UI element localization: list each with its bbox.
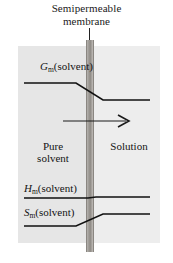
enthalpy-symbol: H bbox=[24, 182, 32, 194]
entropy-symbol: S bbox=[24, 206, 30, 218]
gibbs-energy-label: Gm(solvent) bbox=[40, 60, 93, 74]
enthalpy-subscript: m bbox=[32, 187, 38, 196]
gibbs-energy-line bbox=[24, 83, 150, 100]
entropy-label: Sm(solvent) bbox=[24, 206, 74, 220]
gibbs-subscript: m bbox=[48, 65, 54, 74]
gibbs-symbol: G bbox=[40, 60, 48, 72]
enthalpy-line bbox=[24, 197, 150, 198]
enthalpy-species: (solvent) bbox=[38, 182, 77, 194]
solution-label: Solution bbox=[101, 140, 157, 152]
pure-solvent-label: Pure solvent bbox=[27, 140, 79, 164]
pure-solvent-line-2: solvent bbox=[27, 152, 79, 164]
solvent-flow-arrow bbox=[63, 115, 129, 127]
entropy-subscript: m bbox=[30, 211, 36, 220]
osmosis-thermodynamics-figure: Semipermeable membrane Gm(solvent) H bbox=[0, 0, 173, 263]
entropy-species: (solvent) bbox=[35, 206, 74, 218]
gibbs-species: (solvent) bbox=[54, 60, 93, 72]
enthalpy-label: Hm(solvent) bbox=[24, 182, 77, 196]
energy-level-lines bbox=[0, 0, 173, 263]
pure-solvent-line-1: Pure bbox=[27, 140, 79, 152]
